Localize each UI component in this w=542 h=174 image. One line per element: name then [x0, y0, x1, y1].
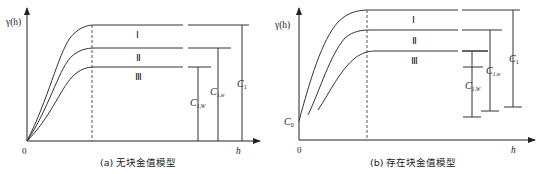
nugget-c0-label: C0 — [284, 116, 294, 128]
curve-label-I: Ⅰ — [136, 29, 139, 40]
curve-III — [318, 51, 458, 110]
origin-label: 0 — [22, 146, 27, 156]
sill-c1w-label: C1,w — [486, 65, 501, 77]
sill-c1-label: C1 — [509, 53, 519, 65]
y-axis-label: γ(h) — [274, 20, 290, 31]
origin-label: 0 — [297, 145, 302, 155]
curve-label-II: Ⅱ — [412, 35, 417, 46]
panel-b-with-nugget: γ(h) 0 h C0 Ⅰ Ⅱ Ⅲ C1 C1,w C1,W (b) 存在块金值… — [274, 8, 535, 168]
x-axis-label: h — [236, 146, 241, 156]
curve-I — [299, 10, 458, 121]
panel-a-no-nugget: γ(h) 0 h Ⅰ Ⅱ Ⅲ C1 C1,w C1,W (a) 无块金值模型 — [5, 8, 260, 168]
sill-c1W-label: C1,W — [465, 80, 481, 92]
curve-I — [27, 25, 183, 141]
x-axis-label: h — [511, 145, 516, 155]
curve-label-II: Ⅱ — [136, 52, 141, 63]
curve-label-III: Ⅲ — [411, 55, 418, 66]
y-axis-label: γ(h) — [5, 17, 21, 28]
curve-II — [308, 30, 458, 115]
curve-II — [27, 48, 183, 141]
caption-b: (b) 存在块金值模型 — [370, 157, 456, 168]
sill-c1-label: C1 — [237, 78, 247, 90]
sill-c1w-label: C1,w — [210, 86, 225, 98]
curve-label-I: Ⅰ — [412, 14, 415, 25]
caption-a: (a) 无块金值模型 — [100, 157, 176, 168]
variogram-figure: γ(h) 0 h Ⅰ Ⅱ Ⅲ C1 C1,w C1,W (a) 无块金值模型 γ… — [0, 0, 542, 174]
curve-III — [27, 67, 183, 141]
curve-label-III: Ⅲ — [135, 71, 142, 82]
